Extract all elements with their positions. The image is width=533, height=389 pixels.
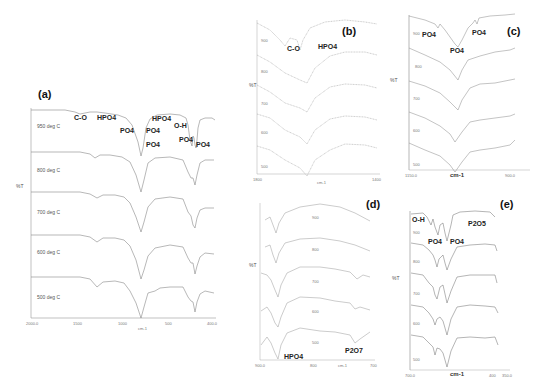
annotation-po4: PO4 (472, 29, 486, 36)
series-label-500: 500 deg C (37, 294, 60, 300)
panel-b-ylabel: %T (249, 82, 257, 88)
x-tick: 2000.0 (26, 321, 38, 326)
panel-d-xlabel: cm-1 (338, 363, 347, 368)
series-label-800: 800 (312, 247, 319, 252)
x-tick: 1150.0 (405, 173, 417, 178)
annotation-po4: PO4 (179, 136, 193, 143)
series-label-600: 600 (413, 321, 420, 326)
panel-e-xlabel: cm-1 (450, 371, 464, 377)
series-label-900: 900 (413, 230, 420, 235)
panel-c-ylabel: %T (390, 77, 398, 83)
series-label-700: 700 (312, 279, 319, 284)
series-label-700: 700 deg C (37, 209, 60, 215)
x-tick: 700.0 (405, 373, 415, 378)
series-label-900: 900 (413, 31, 420, 36)
series-label-700: 700 (413, 291, 420, 296)
panel-a-ylabel: %T (16, 183, 24, 189)
annotation-co: C-O (287, 45, 300, 52)
annotation-po4: PO4 (450, 47, 464, 54)
annotation-po4: PO4 (120, 127, 134, 134)
x-tick: 350.0 (502, 373, 512, 378)
panel-d-ylabel: %T (249, 262, 257, 268)
series-label-600: 600 (312, 309, 319, 314)
annotation-po4: PO4 (422, 31, 436, 38)
panel-e-ylabel: %T (392, 275, 400, 281)
series-label-700: 700 (261, 101, 268, 106)
annotation-po4: PO4 (146, 141, 160, 148)
annotation-hpo4: HPO4 (318, 43, 337, 50)
panel-a: (a) 950 deg C 800 deg C 700 deg C 600 de… (0, 0, 245, 389)
x-tick: 800 (310, 363, 317, 368)
annotation-oh: O-H (412, 216, 425, 223)
annotation-hpo4: HPO4 (284, 353, 303, 360)
series-label-900: 900 (312, 215, 319, 220)
series-label-800: 800 (261, 69, 268, 74)
panel-e: (e) O-H PO4 PO4 P2O5 %T 900 800 700 600 … (385, 195, 533, 389)
series-label-600: 600 (413, 128, 420, 133)
panel-c: (c) PO4 PO4 PO4 %T 900 800 700 600 500 1… (380, 0, 533, 195)
x-tick: 900.0 (505, 173, 515, 178)
x-tick: 500 (165, 321, 172, 326)
x-tick: 900.0 (255, 363, 265, 368)
panel-a-xlabel: cm-1 (138, 326, 147, 331)
x-tick: 400.0 (207, 321, 217, 326)
series-label-500: 500 (261, 164, 268, 169)
annotation-po4: PO4 (450, 238, 464, 245)
annotation-oh: O-H (174, 122, 187, 129)
annotation-p2o5: P2O5 (468, 220, 486, 227)
panel-b: (b) C-O HPO4 %T 900 800 700 600 500 1800… (245, 0, 380, 195)
x-tick: 1800 (253, 177, 262, 182)
annotation-co: C-O (74, 114, 87, 121)
panel-b-xlabel: cm-1 (317, 180, 326, 185)
annotation-hpo4: HPO4 (152, 115, 171, 122)
annotation-po4: PO4 (428, 238, 442, 245)
x-tick: 700 (370, 363, 377, 368)
x-tick: 1500 (73, 321, 82, 326)
series-label-800: 800 deg C (37, 167, 60, 173)
series-label-600: 600 (261, 130, 268, 135)
panel-c-xlabel: cm-1 (450, 172, 464, 178)
panel-d-plot (245, 195, 385, 389)
panel-a-plot (0, 0, 245, 389)
series-label-950: 950 deg C (37, 123, 60, 129)
series-label-600: 600 deg C (37, 249, 60, 255)
series-label-900: 900 (261, 38, 268, 43)
x-tick: 400 (489, 373, 496, 378)
annotation-p2o7: P2O7 (345, 347, 363, 354)
x-tick: 1000 (118, 321, 127, 326)
annotation-po4: PO4 (196, 141, 210, 148)
series-label-500: 500 (312, 340, 319, 345)
annotation-hpo4: HPO4 (97, 114, 116, 121)
panel-d: (d) 900 800 700 600 500 %T HPO4 P2O7 900… (245, 195, 385, 389)
series-label-800: 800 (415, 64, 422, 69)
panel-c-plot (380, 0, 533, 195)
series-label-800: 800 (413, 259, 420, 264)
annotation-po4: PO4 (146, 127, 160, 134)
series-label-500: 500 (413, 162, 420, 167)
series-label-700: 700 (413, 96, 420, 101)
panel-e-plot (385, 195, 533, 389)
series-label-500: 500 (413, 357, 420, 362)
